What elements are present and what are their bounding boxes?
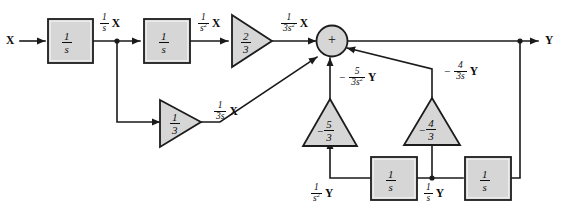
integrator-fb-2-label: 1s [480,169,490,193]
signal-label-neg5over3s2-y: − 53s2 Y [339,67,376,88]
signal-label-1over3s2-x: 13s2 X [281,13,308,34]
signal-label-1s2-x: 1s2 X [198,13,220,34]
signal-label-neg4over3s-y: − 43s Y [444,61,478,82]
gain-neg-four-thirds-label: −43 [419,118,436,142]
block-diagram: X Y + 1s 1s 1s 1s 23 13 −53 −43 1s X 1s2… [0,0,561,209]
gain-one-third-label: 13 [170,112,180,136]
integrator-fb-1-label: 1s [386,169,396,193]
summing-junction-sign: + [328,33,336,47]
integrator-2-label: 1s [159,31,169,55]
signal-label-1s-x: 1s X [100,13,120,34]
node-dot-forward-branch [114,38,119,43]
gain-two-thirds-label: 23 [241,31,251,55]
signal-label-1s2-y: 1s2 Y [311,183,333,204]
input-label: X [6,35,14,47]
output-label: Y [545,35,553,47]
signal-label-1over3s-x: 13s X [214,101,238,122]
node-dot-feedback-branch [429,175,434,180]
gain-triangle-one-third [160,100,201,147]
signal-label-1s-y: 1s Y [424,183,444,204]
gain-triangle-two-thirds [232,15,272,67]
node-dot-output-branch [517,38,522,43]
integrator-1-label: 1s [62,31,72,55]
gain-neg-five-thirds-label: −53 [317,119,334,143]
